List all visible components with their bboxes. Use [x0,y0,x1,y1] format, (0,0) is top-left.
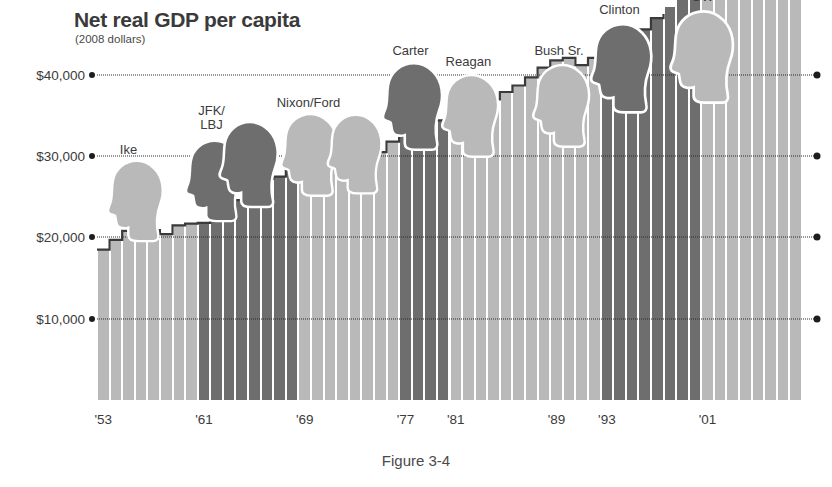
x-axis-tick-label: '93 [598,412,616,427]
y-axis-tick-label: $20,000 [36,230,85,245]
x-axis-tick-label: '01 [699,412,717,427]
x-axis-tick-label: '61 [195,412,213,427]
president-label: Reagan [446,55,492,69]
y-axis-tick-label: $30,000 [36,149,85,164]
y-axis-end-dot [814,71,821,78]
president-label: GW [691,0,713,4]
figure-caption: Figure 3-4 [0,452,832,469]
y-axis-end-dot [814,153,821,160]
x-axis-tick-label: '69 [296,412,314,427]
president-label: Ike [120,143,137,157]
figure-container: Net real GDP per capita (2008 dollars) I… [0,0,832,487]
x-axis-tick-label: '77 [397,412,415,427]
x-axis-tick-label: '53 [94,412,112,427]
president-label: JFK/ LBJ [198,104,225,132]
chart-plot-area: IkeJFK/ LBJNixon/FordCarterReaganBush Sr… [97,14,802,400]
y-axis-tick-label: $40,000 [36,67,85,82]
y-axis-tick-dot [89,72,95,78]
y-axis-end-dot [814,234,821,241]
y-axis-tick-dot [89,234,95,240]
y-axis-end-dot [814,315,821,322]
president-label: Clinton [599,3,639,17]
y-axis-tick-dot [89,316,95,322]
y-axis-tick-dot [89,153,95,159]
president-labels-layer: IkeJFK/ LBJNixon/FordCarterReaganBush Sr… [97,14,802,400]
president-label: Carter [392,44,428,58]
y-axis-tick-label: $10,000 [36,311,85,326]
x-axis-tick-label: '89 [548,412,566,427]
president-label: Nixon/Ford [277,96,341,110]
president-label: Bush Sr. [534,44,583,58]
x-axis-tick-label: '81 [447,412,465,427]
